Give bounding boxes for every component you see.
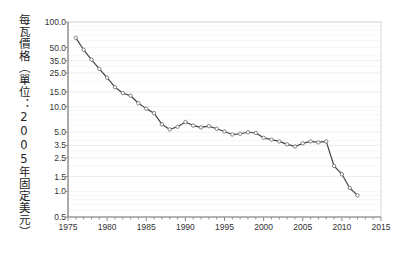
x-tick-label: 2005 <box>293 222 312 232</box>
x-tick-label: 1980 <box>98 222 117 232</box>
x-tick-label: 2010 <box>332 222 351 232</box>
x-tick-label: 1995 <box>215 222 234 232</box>
plot-area <box>0 0 405 256</box>
chart-figure: 每瓦價格（單位：2005年固定美元） 100.050.035.025.015.0… <box>0 0 405 256</box>
x-axis-tick-labels: 197519801985199019952000200520102015 <box>0 222 405 240</box>
x-axis-tick-marks <box>68 217 381 221</box>
x-tick-label: 2015 <box>372 222 391 232</box>
x-tick-label: 1990 <box>176 222 195 232</box>
x-tick-label: 1985 <box>137 222 156 232</box>
minor-gridlines <box>68 22 381 217</box>
x-tick-label: 2000 <box>254 222 273 232</box>
x-tick-label: 1975 <box>59 222 78 232</box>
